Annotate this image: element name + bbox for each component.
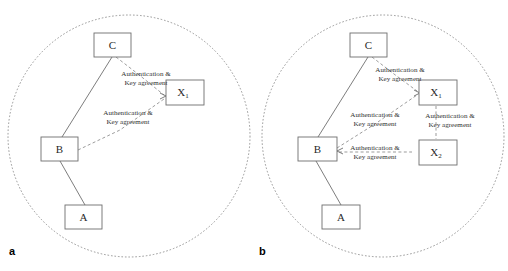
link-c-b-a: [62, 57, 112, 137]
edge-label-c-x1-a: Authentication & Key agreement: [121, 70, 171, 87]
edge-label-b-x1-b-line2: Key agreement: [353, 120, 396, 128]
panel-letter-a: a: [9, 245, 16, 257]
edge-label-b-x1-b-line1: Authentication &: [350, 111, 400, 119]
node-a-b-label: A: [337, 211, 345, 223]
link-b-a-b: [316, 161, 341, 205]
edge-label-b-x1-a-line1: Authentication &: [103, 109, 153, 117]
edge-label-b-x2-b: Authentication & Key agreement: [350, 144, 400, 161]
arrowhead-b-left-b: [337, 148, 343, 154]
figure-root: C B A X1 Authentication & Key agreement: [0, 0, 508, 271]
node-c-b-label: C: [365, 39, 372, 51]
edge-label-c-x1-b: Authentication & Key agreement: [375, 66, 425, 83]
edge-label-c-x1-a-line2: Key agreement: [124, 79, 167, 87]
link-c-x1-b: [372, 57, 417, 91]
edge-label-b-x2-b-line2: Key agreement: [353, 153, 396, 161]
node-x1-b[interactable]: X1: [419, 80, 457, 105]
node-c-a-label: C: [109, 39, 116, 51]
node-a-b[interactable]: A: [322, 205, 360, 229]
edge-label-c-x1-b-line1: Authentication &: [375, 66, 425, 74]
edge-label-x1-x2-b: Authentication & Key agreement: [425, 112, 475, 129]
edge-label-b-x1-a-line2: Key agreement: [106, 118, 149, 126]
node-a-a[interactable]: A: [65, 205, 102, 229]
edge-label-b-x2-b-line1: Authentication &: [350, 144, 400, 152]
node-b-a[interactable]: B: [41, 137, 78, 161]
edge-label-x1-x2-b-line1: Authentication &: [425, 112, 475, 120]
node-c-a[interactable]: C: [94, 33, 131, 57]
node-b-a-label: B: [56, 143, 63, 155]
edge-label-x1-x2-b-line2: Key agreement: [428, 121, 471, 129]
node-b-b-label: B: [314, 143, 321, 155]
diagram-canvas: C B A X1 Authentication & Key agreement: [0, 0, 508, 271]
node-x1-a[interactable]: X1: [166, 80, 204, 105]
panel-a: C B A X1 Authentication & Key agreement: [8, 15, 250, 257]
link-b-a-a: [60, 161, 85, 205]
edge-label-b-x1-b: Authentication & Key agreement: [350, 111, 400, 128]
edge-label-c-x1-a-line1: Authentication &: [121, 70, 171, 78]
node-c-b[interactable]: C: [350, 33, 387, 57]
node-x2-b[interactable]: X2: [419, 140, 457, 165]
panel-letter-b: b: [259, 245, 266, 257]
edge-label-b-x1-a: Authentication & Key agreement: [103, 109, 153, 126]
node-a-a-label: A: [80, 211, 88, 223]
node-b-b[interactable]: B: [298, 137, 337, 161]
edge-label-c-x1-b-line2: Key agreement: [378, 75, 421, 83]
panel-b: C B A X1 X2: [259, 15, 504, 257]
